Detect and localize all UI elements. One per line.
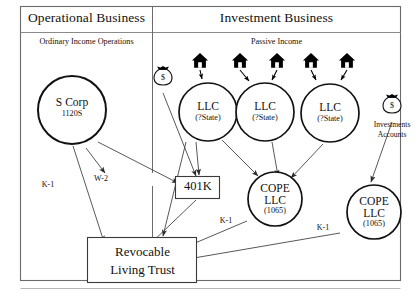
llc-2-circle (236, 83, 294, 141)
house-icons (192, 53, 355, 68)
edge-house1-llc1 (200, 70, 202, 79)
edge-llc3-cope1 (291, 144, 323, 178)
node-shapes (38, 76, 401, 283)
edge-bag-cope2 (371, 122, 392, 182)
cope-1-circle (248, 172, 302, 226)
edge-house2-llc2 (240, 70, 249, 81)
money-bag-icon: $ (154, 66, 172, 85)
trust-box (88, 238, 197, 283)
edge-llc1-cope1 (222, 140, 258, 176)
house-icon (232, 53, 248, 68)
diagram-canvas: $ $ (0, 0, 419, 296)
llc-3-circle (301, 84, 359, 142)
edge-scorp-trust (73, 146, 104, 242)
estate-structure-diagram: $ $ Operational Business Investment Busi… (0, 0, 419, 296)
s-corp-circle (38, 76, 106, 144)
house-icon (339, 53, 355, 68)
svg-text:$: $ (161, 73, 165, 82)
house-icon (192, 53, 208, 68)
svg-text:$: $ (390, 101, 394, 110)
cope-2-circle (347, 185, 401, 239)
edges-houses-llc (200, 70, 347, 81)
edge-house4-llc3 (311, 70, 316, 80)
k401-box (176, 177, 220, 199)
house-icon (269, 53, 285, 68)
edges-operational (73, 142, 178, 242)
edge-scorp-w2 (86, 148, 105, 173)
edge-scorp-401k (98, 142, 178, 183)
edge-house5-llc3 (341, 70, 347, 80)
edge-cope2-trust (188, 233, 340, 259)
edge-house3-llc2 (272, 70, 277, 80)
edge-llc2-cope1 (272, 142, 278, 176)
house-icon (303, 53, 319, 68)
edge-llc1-401k (196, 142, 199, 175)
edges-k1 (188, 221, 340, 259)
money-bag-icon: $ (383, 94, 401, 113)
diagram-frame (21, 7, 401, 289)
llc-1-circle (179, 83, 237, 141)
